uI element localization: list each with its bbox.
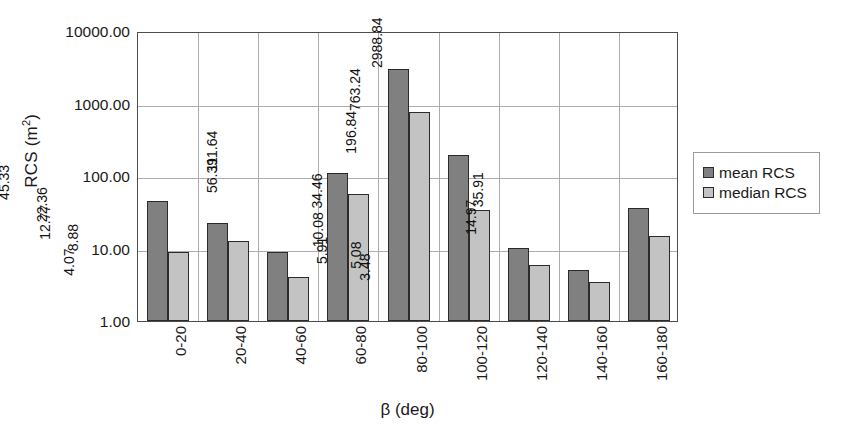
x-tick-label: 140-160 (594, 326, 609, 381)
data-label: 196.84 (344, 111, 465, 154)
legend-item[interactable]: mean RCS (703, 165, 807, 181)
data-label: 3.48 (358, 253, 606, 280)
data-label: 4.07 (62, 249, 305, 276)
data-label: 763.24 (348, 68, 426, 111)
chart-legend: mean RCSmedian RCS (693, 152, 820, 214)
y-tick-label: 1.00 (30, 314, 130, 330)
data-label: 34.46 (310, 173, 486, 208)
bar-median-140-160 (589, 282, 610, 321)
bar-median-160-180 (649, 236, 670, 321)
data-label: 8.88 (66, 224, 284, 251)
legend-swatch-icon (703, 167, 714, 178)
x-tick-label: 120-140 (534, 326, 549, 381)
y-tick-label: 1000.00 (30, 97, 130, 113)
plot-area: 45.339.0522.3612.778.884.07111.6456.3929… (137, 32, 678, 322)
x-tick-label: 60-80 (353, 326, 368, 364)
legend-item[interactable]: median RCS (703, 185, 807, 201)
x-tick-label: 0-20 (173, 326, 188, 356)
legend-label: mean RCS (719, 165, 795, 181)
x-tick-label: 40-60 (293, 326, 308, 364)
bar-median-40-60 (288, 277, 309, 321)
x-tick-label: 100-120 (474, 326, 489, 381)
data-label: 14.97 (464, 200, 666, 235)
x-axis-tick-labels: 0-2020-4040-6060-8080-100100-120120-1401… (137, 326, 678, 396)
x-axis-title: β (deg) (137, 400, 678, 420)
x-tick-label: 20-40 (233, 326, 248, 364)
x-tick-label: 80-100 (414, 326, 429, 373)
data-label: 2988.84 (369, 17, 404, 68)
x-tick-label: 160-180 (654, 326, 669, 381)
y-tick-label: 10000.00 (30, 24, 130, 40)
rcs-bar-chart: 10000.001000.00100.0010.001.00 RCS (m2) … (0, 0, 867, 438)
legend-swatch-icon (703, 187, 714, 198)
legend-label: median RCS (719, 185, 807, 201)
